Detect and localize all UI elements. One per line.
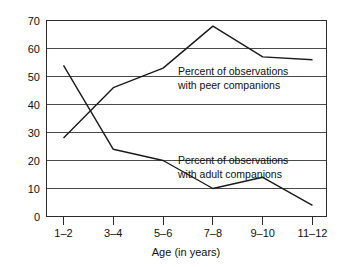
chart-figure: 70 60 50 40 30 20 10 0 1–2 3–4 5–6 7–8 9… [0, 0, 341, 267]
x-tick-label-4: 7–8 [204, 227, 222, 239]
y-tick-70: 70 [28, 15, 40, 27]
y-tick-10: 10 [28, 183, 40, 195]
line-chart: 70 60 50 40 30 20 10 0 1–2 3–4 5–6 7–8 9… [0, 0, 341, 267]
x-tick-label-5: 9–10 [250, 227, 274, 239]
x-tick-label-1: 1–2 [54, 227, 72, 239]
x-tick-label-3: 5–6 [154, 227, 172, 239]
adult-annotation-line2: with adult companions [177, 168, 282, 180]
peer-annotation-line2: with peer companions [177, 79, 280, 91]
x-tick-label-6: 11–12 [298, 227, 328, 239]
peer-annotation-line1: Percent of observations [178, 65, 288, 77]
x-tick-label-2: 3–4 [104, 227, 122, 239]
y-tick-30: 30 [28, 127, 40, 139]
adult-annotation-line1: Percent of observations [178, 154, 288, 166]
y-tick-40: 40 [28, 99, 40, 111]
y-tick-60: 60 [28, 43, 40, 55]
y-tick-20: 20 [28, 155, 40, 167]
y-tick-50: 50 [28, 71, 40, 83]
x-axis-title: Age (in years) [152, 246, 220, 258]
y-tick-0: 0 [34, 211, 40, 223]
